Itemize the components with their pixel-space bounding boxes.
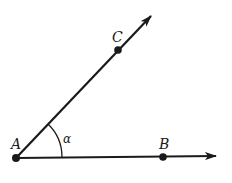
label-b: B <box>158 136 169 152</box>
point-b <box>159 153 167 161</box>
label-a: A <box>9 136 21 152</box>
angle-diagram: A B C α <box>0 0 232 183</box>
angle-alpha-label: α <box>63 132 71 146</box>
ray-ab <box>16 156 216 158</box>
point-a <box>12 154 20 162</box>
point-c <box>114 46 122 54</box>
label-c: C <box>112 29 123 45</box>
angle-arc <box>48 124 62 157</box>
ray-ac <box>16 16 151 158</box>
